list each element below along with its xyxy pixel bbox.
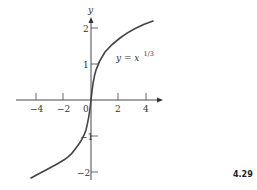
x-tick-label: 4 bbox=[143, 104, 149, 114]
x-tick-label: 2 bbox=[115, 104, 121, 114]
chart-plot: −4 −2 0 2 4 2 1 −1 −2 y y = x 1/3 bbox=[0, 0, 257, 190]
y-tick-label: 2 bbox=[83, 24, 89, 34]
x-axis-arrow-icon bbox=[157, 98, 163, 103]
x-tick-label: −4 bbox=[30, 104, 44, 114]
figure-number: 4.29 bbox=[233, 170, 253, 179]
y-tick-label: −2 bbox=[77, 168, 90, 178]
cube-root-curve bbox=[31, 21, 153, 178]
y-axis-arrow-icon bbox=[89, 17, 94, 23]
y-axis-label: y bbox=[87, 5, 94, 15]
y-tick-label: 1 bbox=[83, 60, 89, 70]
annotation-base: y = x bbox=[115, 53, 139, 63]
curve-annotation: y = x 1/3 bbox=[115, 47, 154, 64]
annotation-exponent: 1/3 bbox=[143, 50, 153, 58]
x-tick-label: −2 bbox=[57, 104, 70, 114]
x-tick-label: 0 bbox=[83, 104, 89, 114]
